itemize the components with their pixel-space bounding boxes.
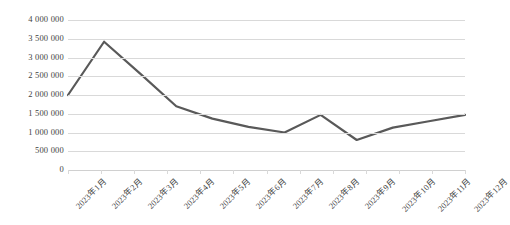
gridline (68, 76, 465, 77)
x-axis-tick-label: 2023年5月 (218, 176, 253, 211)
x-axis: 2023年1月2023年2月2023年3月2023年4月2023年5月2023年… (68, 170, 465, 225)
y-axis-tick-label: 2 000 000 (0, 90, 64, 99)
x-axis-tick-label: 2023年12月 (472, 176, 510, 214)
x-axis-tick-label: 2023年6月 (254, 176, 289, 211)
x-axis-tick-label: 2023年1月 (73, 176, 108, 211)
x-axis-tick-mark (300, 170, 301, 174)
y-axis-tick-label: 500 000 (0, 146, 64, 155)
x-axis-tick-mark (267, 170, 268, 174)
x-axis-tick-mark (233, 170, 234, 174)
gridline (68, 20, 465, 21)
y-axis-tick-label: 3 000 000 (0, 53, 64, 62)
gridline (68, 114, 465, 115)
x-axis-tick-mark (333, 170, 334, 174)
y-axis-tick-label: 3 500 000 (0, 34, 64, 43)
x-axis-tick-mark (366, 170, 367, 174)
x-axis-tick-mark (101, 170, 102, 174)
y-axis-tick-label: 2 500 000 (0, 71, 64, 80)
x-axis-tick-label: 2023年7月 (290, 176, 325, 211)
x-axis-tick-mark (134, 170, 135, 174)
x-axis-tick-label: 2023年9月 (362, 176, 397, 211)
x-axis-tick-label: 2023年3月 (146, 176, 181, 211)
x-axis-tick-mark (68, 170, 69, 174)
x-axis-tick-label: 2023年10月 (400, 176, 438, 214)
y-axis: 4 000 0003 500 0003 000 0002 500 0002 00… (0, 0, 64, 225)
series-polyline (68, 42, 465, 140)
y-axis-tick-label: 0 (0, 165, 64, 174)
x-axis-tick-mark (167, 170, 168, 174)
y-axis-tick-label: 1 500 000 (0, 109, 64, 118)
y-axis-tick-label: 1 000 000 (0, 128, 64, 137)
gridline (68, 133, 465, 134)
gridline (68, 95, 465, 96)
y-axis-tick-label: 4 000 000 (0, 15, 64, 24)
x-axis-tick-mark (200, 170, 201, 174)
gridline (68, 151, 465, 152)
x-axis-tick-label: 2023年2月 (110, 176, 145, 211)
x-axis-tick-label: 2023年4月 (182, 176, 217, 211)
plot-area (68, 20, 465, 170)
x-axis-tick-mark (465, 170, 466, 174)
gridline (68, 39, 465, 40)
x-axis-tick-mark (399, 170, 400, 174)
x-axis-tick-label: 2023年8月 (326, 176, 361, 211)
gridline (68, 58, 465, 59)
x-axis-tick-mark (432, 170, 433, 174)
x-axis-tick-label: 2023年11月 (436, 176, 474, 214)
